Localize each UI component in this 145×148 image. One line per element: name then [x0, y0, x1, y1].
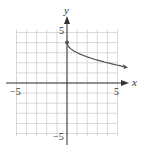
x-tick-label-neg5: −5 — [10, 86, 21, 97]
start-point-dot — [65, 41, 69, 45]
y-tick-label-neg5: −5 — [53, 131, 64, 142]
y-axis-arrow-icon — [64, 16, 70, 24]
x-axis-arrow-icon — [121, 80, 129, 86]
y-axis-label: y — [63, 4, 69, 16]
y-tick-label-5: 5 — [59, 25, 64, 36]
curve-arrow-icon — [123, 64, 128, 69]
function-curve — [67, 43, 126, 67]
axes — [6, 16, 129, 145]
x-axis-label: x — [131, 76, 137, 88]
x-tick-label-5: 5 — [114, 86, 119, 97]
function-graph: x y −5 5 5 −5 — [0, 0, 145, 148]
